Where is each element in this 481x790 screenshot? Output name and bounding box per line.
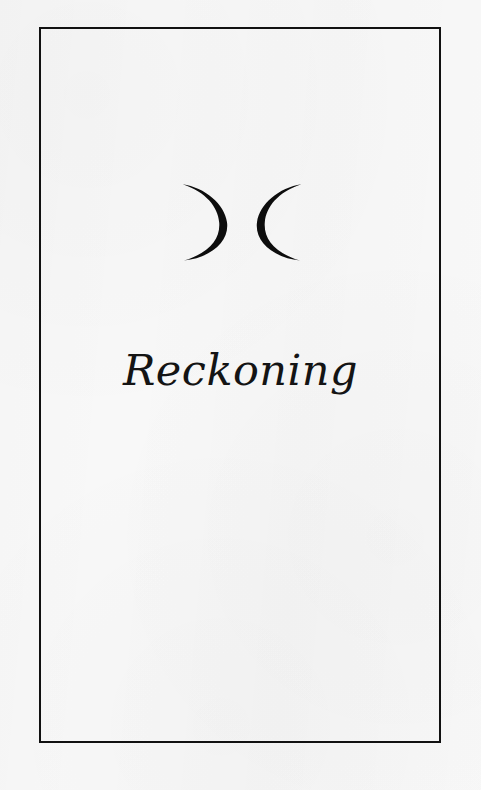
waning-crescent-moon-icon [257, 184, 302, 260]
chapter-title: Reckoning [0, 348, 481, 393]
double-crescent-moon-ornament [172, 178, 312, 266]
book-page: Reckoning [0, 0, 481, 790]
waxing-crescent-moon-icon [183, 184, 228, 260]
